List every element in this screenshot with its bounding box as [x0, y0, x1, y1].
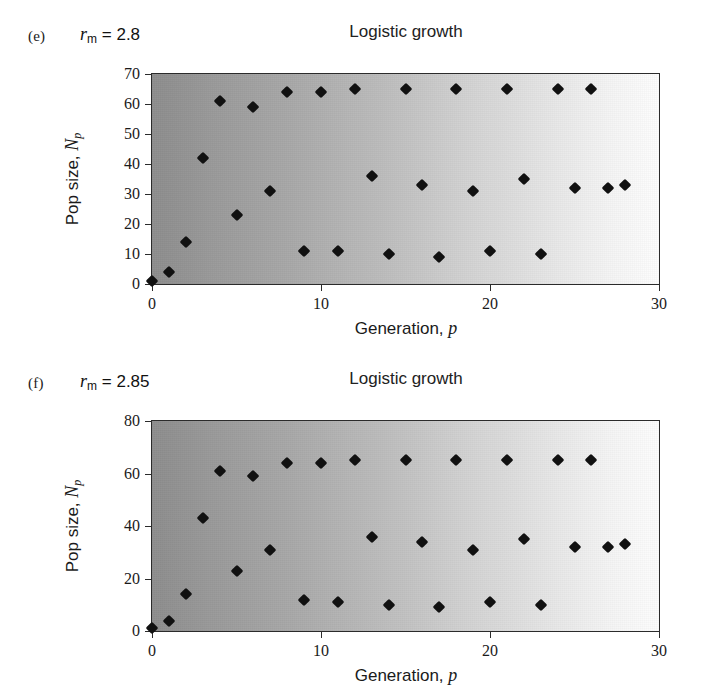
panel-e-x-tick-label: 0 [148, 295, 156, 313]
data-point [382, 248, 395, 261]
data-point [264, 543, 277, 556]
panel-e-y-tick-label: 30 [94, 185, 140, 203]
panel-f-y-tick [145, 579, 152, 580]
panel-f-y-tick-label: 0 [94, 622, 140, 640]
panel-e-y-tick [145, 194, 152, 195]
panel-e-y-tick-label: 70 [94, 65, 140, 83]
panel-e-plot-area: 0102030405060700102030 [151, 73, 660, 285]
data-point [179, 588, 192, 601]
panel-e-y-tick [145, 224, 152, 225]
panel-e-param-subscript: m [87, 32, 97, 46]
panel-f-parameter: rm = 2.85 [80, 371, 150, 393]
panel-f-x-axis-title: Generation, p [151, 665, 661, 686]
panel-e-y-tick-label: 20 [94, 215, 140, 233]
panel-e-y-tick-label: 0 [94, 275, 140, 293]
panel-f-y-tick-label: 20 [94, 570, 140, 588]
data-point [619, 179, 632, 192]
data-point [568, 541, 581, 554]
panel-e-x-axis-title: Generation, p [151, 318, 661, 339]
panel-f-param-subscript: m [87, 379, 97, 393]
panel-f-x-tick-label: 0 [148, 642, 156, 660]
data-point [501, 83, 514, 96]
data-point [365, 170, 378, 183]
panel-f-y-axis-title: Pop size, Np [62, 420, 85, 632]
data-point [484, 596, 497, 609]
panel-f-x-tick-label: 20 [482, 642, 498, 660]
panel-e-y-tick-label: 10 [94, 245, 140, 263]
panel-e-y-tick-label: 40 [94, 155, 140, 173]
data-point [433, 601, 446, 614]
data-point [298, 245, 311, 258]
panel-e-y-tick-label: 60 [94, 95, 140, 113]
data-point [348, 454, 361, 467]
data-point [213, 465, 226, 478]
data-point [619, 538, 632, 551]
data-point [163, 266, 176, 279]
data-point [467, 185, 480, 198]
data-point [146, 622, 159, 635]
panel-f-param-symbol: r [80, 371, 87, 391]
data-point [213, 95, 226, 108]
panel-e: (e) rm = 2.8 Logistic growth Pop size, N… [0, 0, 715, 347]
data-point [298, 593, 311, 606]
data-point [179, 236, 192, 249]
data-point [163, 614, 176, 627]
panel-f-x-tick [321, 631, 322, 638]
data-point [416, 179, 429, 192]
panel-e-x-tick-label: 20 [482, 295, 498, 313]
panel-e-parameter: rm = 2.8 [80, 24, 140, 46]
data-point [585, 83, 598, 96]
data-point [315, 457, 328, 470]
data-point [551, 83, 564, 96]
data-point [146, 275, 159, 288]
panel-f-plot-area: 0204060800102030 [151, 420, 660, 632]
data-point [467, 543, 480, 556]
panel-f-x-tick-label: 30 [651, 642, 667, 660]
data-point [551, 454, 564, 467]
panel-e-x-tick-label: 30 [651, 295, 667, 313]
panel-e-y-axis-title-wrap: Pop size, Np [62, 73, 82, 285]
data-point [230, 564, 243, 577]
data-point [281, 457, 294, 470]
data-point [534, 248, 547, 261]
data-point [399, 454, 412, 467]
data-point [382, 598, 395, 611]
data-point [450, 454, 463, 467]
data-point [568, 182, 581, 195]
data-point [332, 596, 345, 609]
panel-e-tag: (e) [28, 28, 45, 45]
data-point [517, 173, 530, 186]
data-point [602, 182, 615, 195]
panel-e-plot-texture [152, 74, 659, 284]
data-point [247, 101, 260, 114]
panel-f: (f) rm = 2.85 Logistic growth Pop size, … [0, 347, 715, 694]
panel-f-y-tick [145, 526, 152, 527]
panel-f-param-equals: = [102, 372, 112, 391]
panel-f-x-tick [490, 631, 491, 638]
panel-f-y-axis-title-wrap: Pop size, Np [62, 420, 82, 632]
panel-e-y-tick [145, 254, 152, 255]
data-point [501, 454, 514, 467]
panel-f-param-value: 2.85 [116, 372, 149, 391]
panel-e-y-tick [145, 134, 152, 135]
panel-f-chart-title: Logistic growth [151, 369, 661, 389]
panel-e-x-tick [321, 284, 322, 291]
data-point [230, 209, 243, 222]
data-point [484, 245, 497, 258]
data-point [517, 533, 530, 546]
panel-e-y-axis-title: Pop size, Np [62, 73, 85, 285]
panel-e-y-tick [145, 104, 152, 105]
panel-f-x-tick-label: 10 [313, 642, 329, 660]
data-point [332, 245, 345, 258]
data-point [602, 541, 615, 554]
data-point [585, 454, 598, 467]
data-point [534, 598, 547, 611]
data-point [433, 251, 446, 264]
panel-f-y-tick-label: 40 [94, 517, 140, 535]
data-point [264, 185, 277, 198]
data-point [281, 86, 294, 99]
panel-f-y-tick [145, 421, 152, 422]
panel-e-param-symbol: r [80, 24, 87, 44]
data-point [365, 530, 378, 543]
data-point [416, 535, 429, 548]
